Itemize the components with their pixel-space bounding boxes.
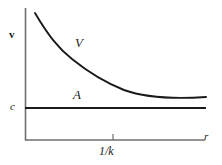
curve-v-path	[35, 13, 206, 98]
line-label-a: A	[73, 88, 81, 101]
y-axis-label: v	[9, 29, 15, 40]
x-axis-tick-label-1k: 1/k	[99, 145, 114, 157]
x-axis-label: r	[204, 131, 208, 142]
figure-container: v c V A r 1/k	[0, 0, 222, 165]
curve-label-v: V	[75, 36, 83, 49]
y-axis-value-label-c: c	[10, 101, 15, 112]
plot-canvas	[0, 0, 222, 165]
